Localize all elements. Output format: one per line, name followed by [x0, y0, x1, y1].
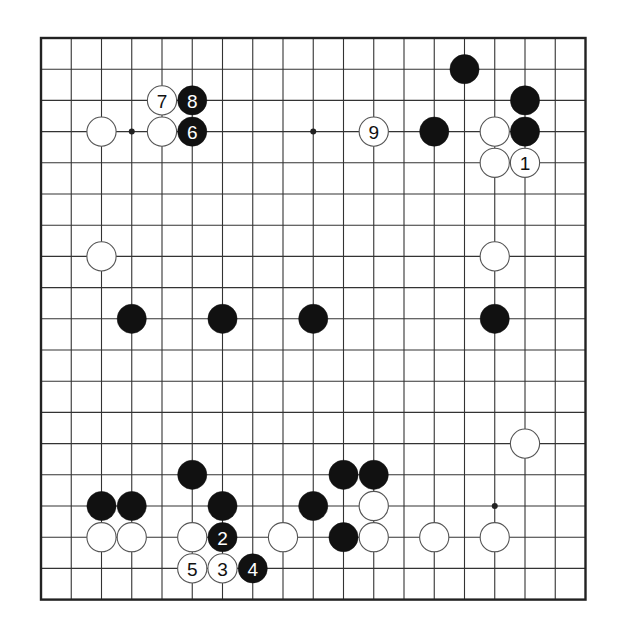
black-stone	[420, 117, 449, 146]
stone-circle	[329, 460, 358, 489]
stone-circle	[480, 117, 509, 146]
white-stone	[480, 148, 509, 177]
black-stone	[329, 460, 358, 489]
white-stone: 3	[208, 554, 237, 583]
black-stone	[510, 86, 539, 115]
stone-circle	[87, 491, 116, 520]
stone-circle	[208, 491, 237, 520]
stone-circle	[299, 491, 328, 520]
black-stone: 4	[238, 554, 267, 583]
move-number-label: 6	[187, 122, 198, 143]
white-stone: 7	[147, 86, 176, 115]
stone-circle	[329, 523, 358, 552]
stone-circle	[268, 523, 297, 552]
black-stone	[87, 491, 116, 520]
stone-circle	[87, 242, 116, 271]
white-stone	[359, 491, 388, 520]
board-canvas[interactable]: 917862534	[0, 0, 621, 642]
move-number-label: 4	[247, 559, 258, 580]
black-stone	[208, 304, 237, 333]
white-stone	[480, 242, 509, 271]
stone-circle	[178, 523, 207, 552]
stone-circle	[480, 304, 509, 333]
stone-circle	[480, 523, 509, 552]
go-board[interactable]: 917862534	[0, 0, 621, 642]
white-stone	[359, 523, 388, 552]
move-number-label: 2	[217, 528, 228, 549]
stone-circle	[147, 117, 176, 146]
white-stone	[268, 523, 297, 552]
black-stone	[117, 491, 146, 520]
star-point	[310, 129, 316, 135]
white-stone	[420, 523, 449, 552]
stone-circle	[420, 523, 449, 552]
move-number-label: 7	[157, 91, 168, 112]
move-number-label: 8	[187, 91, 198, 112]
stone-circle	[510, 429, 539, 458]
stone-circle	[299, 304, 328, 333]
black-stone	[299, 304, 328, 333]
stone-circle	[117, 491, 146, 520]
white-stone	[117, 523, 146, 552]
white-stone	[87, 117, 116, 146]
white-stone	[87, 242, 116, 271]
stone-circle	[420, 117, 449, 146]
stone-circle	[359, 491, 388, 520]
star-point	[129, 129, 135, 135]
move-number-label: 1	[520, 153, 531, 174]
black-stone	[450, 55, 479, 84]
black-stone	[480, 304, 509, 333]
white-stone	[178, 523, 207, 552]
white-stone	[87, 523, 116, 552]
stone-circle	[480, 242, 509, 271]
stone-circle	[208, 304, 237, 333]
stone-circle	[178, 460, 207, 489]
stone-circle	[359, 523, 388, 552]
white-stone	[480, 117, 509, 146]
move-number-label: 5	[187, 559, 198, 580]
move-number-label: 3	[217, 559, 228, 580]
stone-circle	[87, 523, 116, 552]
stone-circle	[480, 148, 509, 177]
stone-circle	[87, 117, 116, 146]
black-stone	[117, 304, 146, 333]
black-stone	[299, 491, 328, 520]
black-stone	[178, 460, 207, 489]
stone-circle	[117, 523, 146, 552]
stone-circle	[510, 117, 539, 146]
black-stone	[208, 491, 237, 520]
black-stone: 6	[178, 117, 207, 146]
black-stone	[510, 117, 539, 146]
white-stone	[510, 429, 539, 458]
move-number-label: 9	[368, 122, 379, 143]
black-stone: 8	[178, 86, 207, 115]
star-point	[492, 503, 498, 509]
black-stone	[329, 523, 358, 552]
white-stone	[147, 117, 176, 146]
white-stone: 5	[178, 554, 207, 583]
white-stone: 1	[510, 148, 539, 177]
stone-circle	[450, 55, 479, 84]
stone-circle	[359, 460, 388, 489]
white-stone: 9	[359, 117, 388, 146]
black-stone	[359, 460, 388, 489]
white-stone	[480, 523, 509, 552]
stone-circle	[117, 304, 146, 333]
stone-circle	[510, 86, 539, 115]
black-stone: 2	[208, 523, 237, 552]
